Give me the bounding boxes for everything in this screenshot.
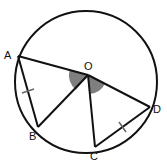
diagram-canvas: A B C D O <box>0 0 167 166</box>
label-a: A <box>4 49 12 61</box>
segment-ao <box>18 56 88 75</box>
label-b: B <box>29 130 36 142</box>
label-d: D <box>153 103 161 115</box>
tick-mark-cd <box>119 122 126 132</box>
circle-geometry-diagram: A B C D O <box>0 0 167 166</box>
label-o: O <box>84 60 93 72</box>
label-c: C <box>90 150 98 162</box>
segment-ob <box>38 75 88 127</box>
